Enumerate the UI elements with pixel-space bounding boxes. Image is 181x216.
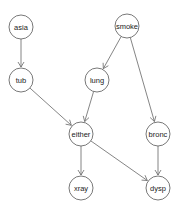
node-label: smoke — [116, 22, 138, 31]
edge-tub-to-either — [30, 88, 71, 125]
edge-line — [30, 88, 71, 125]
node-label: tub — [16, 76, 26, 85]
node-label: xray — [74, 184, 88, 193]
edge-line — [103, 36, 121, 68]
edges-layer — [18, 36, 161, 180]
edge-smoke-to-bronc — [130, 38, 156, 122]
node-dysp: dysp — [146, 176, 170, 200]
edge-line — [130, 38, 154, 122]
edge-line — [85, 92, 94, 122]
node-bronc: bronc — [146, 122, 170, 146]
node-tub: tub — [9, 68, 33, 92]
edge-either-to-xray — [78, 146, 84, 175]
node-label: bronc — [149, 130, 168, 139]
node-label: lung — [90, 76, 104, 85]
edge-bronc-to-dysp — [155, 146, 161, 175]
node-asia: asia — [9, 15, 33, 39]
edge-either-to-dysp — [91, 141, 148, 181]
node-lung: lung — [85, 68, 109, 92]
node-label: asia — [14, 23, 29, 32]
edge-smoke-to-lung — [103, 36, 121, 68]
node-either: either — [69, 122, 93, 146]
bayesian-network-diagram: asiasmoketublungeitherbroncxraydysp — [0, 0, 181, 216]
edge-lung-to-either — [83, 92, 93, 122]
edge-asia-to-tub — [18, 39, 24, 67]
node-label: dysp — [150, 184, 166, 193]
node-xray: xray — [69, 176, 93, 200]
node-label: either — [72, 130, 91, 139]
nodes-layer: asiasmoketublungeitherbroncxraydysp — [9, 14, 170, 200]
node-smoke: smoke — [115, 14, 139, 38]
edge-line — [91, 141, 148, 181]
